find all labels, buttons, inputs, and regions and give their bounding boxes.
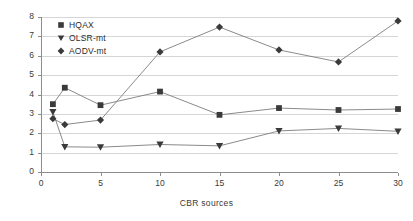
diamond-data-marker [61, 121, 68, 128]
legend-label: HQAX [69, 20, 94, 30]
legend-label: AODV-mt [69, 46, 106, 56]
x-tick-mark [220, 173, 221, 176]
x-tick-label: 0 [29, 178, 53, 188]
legend-item-olsr-mt: OLSR-mt [55, 31, 121, 44]
x-tick-mark [160, 173, 161, 176]
y-tick-label: 5 [8, 70, 34, 79]
y-tick-label: 7 [8, 31, 34, 40]
y-tick-label: 1 [8, 148, 34, 157]
y-tick-mark [38, 75, 41, 76]
y-tick-label: 3 [8, 109, 34, 118]
legend-label: OLSR-mt [69, 33, 106, 43]
square-data-marker [98, 102, 104, 108]
x-tick-mark [101, 173, 102, 176]
y-tick-mark [38, 133, 41, 134]
x-tick-mark [398, 173, 399, 176]
square-data-marker [276, 105, 282, 111]
y-tick-mark [38, 153, 41, 154]
y-tick-mark [38, 36, 41, 37]
delay-vs-cbr-sources-chart: Delay(ms) CBR sources HQAX OLSR-mt AODV-… [0, 0, 413, 221]
legend-item-hqax: HQAX [55, 18, 121, 31]
y-tick-mark [38, 114, 41, 115]
y-tick-label: 2 [8, 128, 34, 137]
diamond-marker-icon [55, 45, 67, 57]
diamond-data-marker [49, 115, 56, 122]
square-data-marker [62, 85, 68, 91]
y-tick-label: 8 [8, 12, 34, 21]
square-data-marker [157, 89, 163, 95]
x-tick-label: 10 [148, 178, 172, 188]
x-tick-label: 25 [327, 178, 351, 188]
series-line [53, 112, 398, 147]
x-tick-label: 15 [208, 178, 232, 188]
square-data-marker [217, 112, 223, 118]
x-tick-mark [41, 173, 42, 176]
diamond-data-marker [394, 17, 401, 24]
y-tick-mark [38, 17, 41, 18]
diamond-data-marker [275, 46, 282, 53]
x-tick-mark [339, 173, 340, 176]
y-tick-label: 4 [8, 90, 34, 99]
square-data-marker [336, 107, 342, 113]
triangle-down-marker-icon [55, 32, 67, 44]
square-marker-icon [55, 19, 67, 31]
y-tick-label: 0 [8, 167, 34, 176]
x-tick-label: 5 [89, 178, 113, 188]
y-tick-label: 6 [8, 51, 34, 60]
diamond-data-marker [335, 58, 342, 65]
x-tick-mark [279, 173, 280, 176]
diamond-data-marker [216, 23, 223, 30]
series-line [53, 88, 398, 115]
legend-item-aodv-mt: AODV-mt [55, 44, 121, 57]
triangle-down-data-marker [49, 109, 56, 116]
y-tick-mark [38, 95, 41, 96]
legend: HQAX OLSR-mt AODV-mt [55, 18, 121, 57]
y-tick-mark [38, 56, 41, 57]
triangle-down-data-marker [394, 128, 401, 135]
square-data-marker [50, 101, 56, 107]
x-tick-label: 20 [267, 178, 291, 188]
x-tick-label: 30 [386, 178, 410, 188]
square-data-marker [395, 106, 401, 112]
